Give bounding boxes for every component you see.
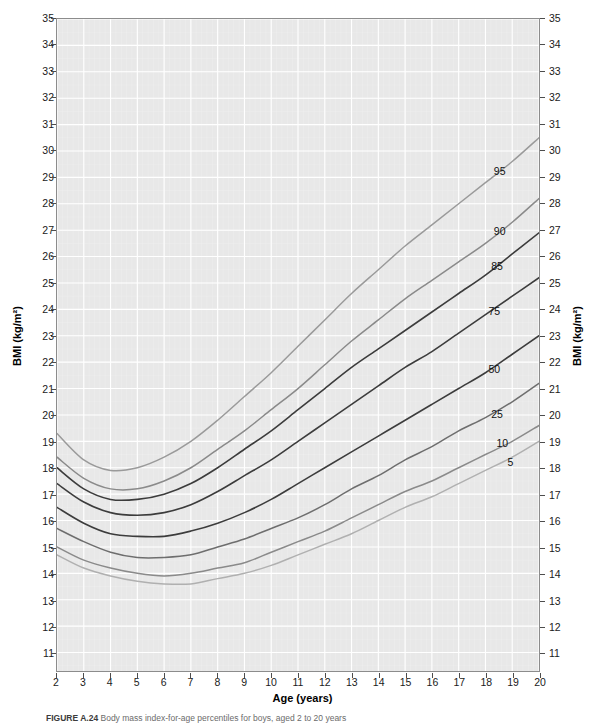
y-axis-right-tick-label: 25 (549, 278, 561, 288)
x-axis-tick-mark (298, 673, 299, 678)
y-axis-right-tick-mark (540, 309, 545, 310)
y-axis-right-tick-mark (540, 177, 545, 178)
y-axis-right-tick-mark (540, 574, 545, 575)
y-axis-left-tick-mark (51, 521, 56, 522)
y-axis-right-tick-label: 27 (549, 225, 561, 235)
x-axis-tick-mark (110, 673, 111, 678)
x-axis-tick-mark (406, 673, 407, 678)
percentile-label-95: 95 (489, 166, 511, 177)
y-axis-right-tick-mark (540, 495, 545, 496)
x-axis-tick-mark (325, 673, 326, 678)
y-axis-left-tick-mark (51, 495, 56, 496)
percentile-curve-95 (57, 138, 539, 471)
y-axis-right-tick-mark (540, 97, 545, 98)
y-axis-right-tick-mark (540, 653, 545, 654)
y-axis-right-tick-mark (540, 283, 545, 284)
y-axis-right-ticks: 1112131415161718192021222324252627282930… (549, 0, 589, 725)
y-axis-right-tick-mark (540, 256, 545, 257)
y-axis-left-tick-mark (51, 309, 56, 310)
x-axis-tick-mark (540, 673, 541, 678)
x-axis-tick-mark (190, 673, 191, 678)
y-axis-right-tick-mark (540, 18, 545, 19)
y-axis-left-tick-mark (51, 415, 56, 416)
x-axis-tick-mark (137, 673, 138, 678)
y-axis-left-tick-mark (51, 18, 56, 19)
x-axis-tick-mark (352, 673, 353, 678)
y-axis-right-tick-label: 30 (549, 145, 561, 155)
y-axis-left-tick-mark (51, 97, 56, 98)
y-axis-left-tick-mark (51, 389, 56, 390)
y-axis-right-tick-label: 28 (549, 198, 561, 208)
y-axis-right-tick-label: 32 (549, 92, 561, 102)
x-axis-tick-mark (83, 673, 84, 678)
percentile-label-5: 5 (499, 457, 521, 468)
x-axis-title: Age (years) (8, 692, 589, 704)
y-axis-right-title: BMI (kg/m²) (571, 291, 583, 381)
x-axis-tick-mark (459, 673, 460, 678)
percentile-label-90: 90 (489, 226, 511, 237)
percentile-label-75: 75 (483, 306, 505, 317)
y-axis-left-tick-mark (51, 177, 56, 178)
y-axis-right-tick-label: 18 (549, 463, 561, 473)
y-axis-left-tick-mark (51, 203, 56, 204)
figure-caption-text: Body mass index-for-age percentiles for … (101, 713, 347, 723)
y-axis-left-tick-mark (51, 627, 56, 628)
y-axis-right-tick-mark (540, 548, 545, 549)
y-axis-right-tick-mark (540, 415, 545, 416)
percentile-label-85: 85 (486, 261, 508, 272)
y-axis-right-tick-mark (540, 336, 545, 337)
x-axis-tick-mark (164, 673, 165, 678)
y-axis-right-tick-label: 22 (549, 357, 561, 367)
y-axis-right-tick-label: 26 (549, 251, 561, 261)
percentile-label-10: 10 (491, 438, 513, 449)
y-axis-left-tick-mark (51, 283, 56, 284)
y-axis-left-tick-mark (51, 44, 56, 45)
x-axis-tick-mark (271, 673, 272, 678)
percentile-curve-5 (57, 441, 539, 584)
chart-plot-area (56, 18, 540, 672)
figure-caption-label: FIGURE A.24 (46, 713, 98, 723)
y-axis-right-tick-mark (540, 601, 545, 602)
y-axis-right-tick-mark (540, 124, 545, 125)
y-axis-right-tick-label: 15 (549, 543, 561, 553)
y-axis-left-tick-mark (51, 442, 56, 443)
percentile-label-25: 25 (486, 409, 508, 420)
y-axis-left-tick-mark (51, 256, 56, 257)
y-axis-right-tick-label: 11 (549, 648, 560, 658)
y-axis-right-tick-label: 24 (549, 304, 561, 314)
y-axis-right-tick-mark (540, 362, 545, 363)
y-axis-right-tick-mark (540, 521, 545, 522)
y-axis-right-tick-mark (540, 627, 545, 628)
bmi-percentile-figure: 959085755025105 111213141516171819202122… (0, 0, 589, 725)
figure-caption: FIGURE A.24 Body mass index-for-age perc… (46, 712, 576, 724)
y-axis-right-tick-label: 23 (549, 331, 561, 341)
y-axis-left-tick-mark (51, 336, 56, 337)
y-axis-left-tick-mark (51, 124, 56, 125)
y-axis-right-tick-label: 35 (549, 13, 561, 23)
y-axis-right-tick-label: 33 (549, 66, 561, 76)
y-axis-right-tick-mark (540, 203, 545, 204)
y-axis-right-tick-mark (540, 468, 545, 469)
y-axis-right-tick-label: 14 (549, 569, 561, 579)
y-axis-right-tick-mark (540, 44, 545, 45)
x-axis-tick-mark (244, 673, 245, 678)
percentile-curves (57, 19, 539, 671)
x-axis-tick-mark (432, 673, 433, 678)
x-axis-tick-mark (486, 673, 487, 678)
y-axis-left-tick-mark (51, 548, 56, 549)
y-axis-left-title: BMI (kg/m²) (11, 291, 23, 381)
y-axis-right-tick-label: 12 (549, 622, 561, 632)
y-axis-left-tick-mark (51, 574, 56, 575)
x-axis-tick-mark (379, 673, 380, 678)
y-axis-left-tick-mark (51, 230, 56, 231)
x-axis-tick-mark (513, 673, 514, 678)
y-axis-right-tick-mark (540, 442, 545, 443)
y-axis-left-tick-mark (51, 468, 56, 469)
y-axis-right-tick-label: 21 (549, 384, 561, 394)
x-axis-ticks: 234567891011121314151617181920 (0, 676, 589, 692)
x-axis-tick-mark (56, 673, 57, 678)
y-axis-right-tick-label: 34 (549, 39, 561, 49)
y-axis-right-tick-mark (540, 71, 545, 72)
y-axis-right-tick-label: 29 (549, 172, 561, 182)
y-axis-right-tick-label: 31 (549, 119, 561, 129)
